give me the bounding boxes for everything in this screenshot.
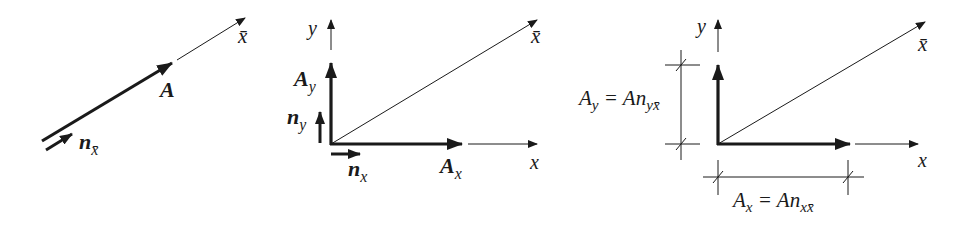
xbar-axis [718, 22, 925, 144]
y-axis-label: y [308, 18, 317, 38]
panel-3 [665, 20, 925, 195]
ny-label: ny [287, 106, 306, 128]
panel-1 [42, 18, 245, 150]
vector-diagram-canvas [0, 0, 972, 233]
ay-label: Ay [294, 68, 316, 90]
dimension-line-y [665, 50, 700, 160]
xbar-axis-label: x̄ [238, 26, 247, 47]
xbar-axis [177, 18, 245, 60]
xbar-axis-label: x̄ [531, 26, 540, 47]
y-axis-label: y [697, 16, 706, 36]
panel-2 [320, 20, 537, 154]
x-axis-label: x [918, 150, 927, 170]
ax-magnitude-label: Ax = Anxx̄ [733, 190, 814, 211]
ax-label: Ax [440, 155, 462, 177]
vector-a-label: A [160, 79, 175, 101]
ay-magnitude-label: Ay = Anyx̄ [579, 88, 660, 109]
nx-label: nx [348, 158, 367, 180]
xbar-axis-label: x̄ [918, 34, 927, 55]
x-axis-label: x [530, 152, 539, 172]
vector-a-arrow [42, 63, 172, 141]
xbar-axis [331, 20, 537, 144]
unit-vector-n-label: nx̄ [79, 131, 98, 153]
